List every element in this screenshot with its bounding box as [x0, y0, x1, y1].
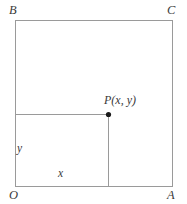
square-outline: [16, 21, 173, 187]
geometry-figure: B C O A y x P(x, y): [0, 0, 187, 204]
vertex-label-o: O: [9, 189, 18, 202]
point-p-marker: [106, 112, 111, 117]
vertex-label-b: B: [9, 4, 17, 17]
vertex-label-c: C: [167, 4, 175, 17]
point-label-p: P(x, y): [104, 94, 136, 106]
segment-label-x: x: [58, 168, 63, 180]
diagram-canvas: [0, 0, 187, 204]
vertex-label-a: A: [167, 189, 175, 202]
segment-label-y: y: [17, 143, 22, 155]
